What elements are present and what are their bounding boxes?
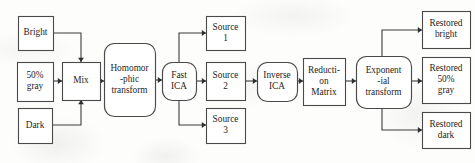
arrow-head-icon: [352, 78, 356, 84]
arrow-head-icon: [418, 78, 422, 84]
arrow-head-icon: [202, 78, 206, 84]
edge-line: [382, 30, 422, 56]
node-inverse_ica: InverseICA: [258, 63, 298, 102]
edge-reduction-to-exponential: [345, 78, 356, 84]
edge-line: [52, 100, 81, 125]
edge-exponential-to-restored-bright: [382, 27, 422, 56]
node-exponential: Exponent-ialtransform: [357, 57, 412, 109]
arrow-head-icon: [158, 77, 162, 83]
edge-dark-to-mix: [52, 100, 84, 125]
arrow-head-icon: [418, 27, 422, 33]
edge-exponential-to-restored-dark: [382, 108, 422, 133]
diagram-canvas: Bright50%grayDarkMixHomomor-phictransfor…: [0, 0, 475, 163]
arrow-head-icon: [253, 78, 257, 84]
node-label: 50%gray: [26, 70, 43, 91]
arrow-head-icon: [299, 78, 303, 84]
node-restored_dark: Restoreddark: [423, 113, 471, 149]
node-source3: Source3: [207, 109, 246, 144]
edge-line: [382, 108, 422, 130]
edge-line: [179, 33, 206, 62]
node-label: Mix: [73, 75, 89, 85]
node-reduction_matrix: Reducti-onMatrix: [304, 59, 346, 106]
node-homomorphic: Homomor-phictransform: [105, 44, 156, 117]
nodes-layer: Bright50%grayDarkMixHomomor-phictransfor…: [18, 12, 471, 149]
edge-line: [53, 33, 81, 62]
node-bright: Bright: [19, 17, 54, 51]
node-gray50: 50%gray: [18, 63, 54, 102]
edge-fastica-to-source3: [179, 100, 206, 128]
node-restored_gray: Restored50%gray: [423, 58, 471, 104]
edge-exponential-to-restored-gray: [411, 78, 422, 84]
edge-fastica-to-source2: [196, 78, 206, 84]
node-mix: Mix: [63, 63, 101, 101]
arrow-head-icon: [418, 127, 422, 133]
edge-bright-to-mix: [53, 33, 84, 62]
node-source2: Source2: [207, 63, 246, 101]
edge-gray-to-mix: [53, 78, 62, 84]
edge-fastica-to-source1: [179, 30, 206, 62]
arrow-head-icon: [78, 58, 84, 62]
node-fast_ica: FastICA: [163, 63, 197, 101]
flowchart-diagram: Bright50%grayDarkMixHomomor-phictransfor…: [0, 0, 475, 163]
edge-source2-to-inverseica: [245, 78, 257, 84]
node-label: Dark: [26, 120, 45, 130]
node-source1: Source1: [207, 17, 246, 51]
arrow-head-icon: [58, 78, 62, 84]
arrow-head-icon: [202, 122, 206, 128]
arrow-head-icon: [202, 30, 206, 36]
node-dark: Dark: [19, 109, 53, 144]
node-restored_bright: Restoredbright: [423, 12, 471, 49]
edge-line: [179, 100, 206, 125]
node-label: Bright: [24, 27, 48, 37]
node-label: FastICA: [171, 70, 187, 91]
